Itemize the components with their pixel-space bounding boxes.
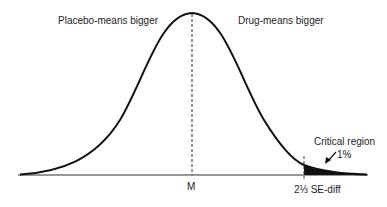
right-region-label: Drug-means bigger xyxy=(238,15,324,26)
mean-label: M xyxy=(187,181,195,192)
distribution-diagram xyxy=(0,0,387,207)
normal-curve xyxy=(20,13,367,175)
left-region-label: Placebo-means bigger xyxy=(58,15,158,26)
critical-region-label: Critical region xyxy=(314,136,375,147)
critical-point-label: 2⅓ SE-diff xyxy=(294,184,341,195)
critical-percent-label: 1% xyxy=(337,149,351,160)
